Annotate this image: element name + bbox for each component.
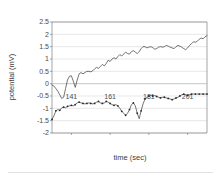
data-point-marker	[78, 101, 80, 103]
data-point-marker	[194, 93, 196, 95]
data-point-marker	[90, 103, 92, 105]
y-tick-label: -1	[43, 105, 49, 112]
data-point-marker	[125, 114, 127, 116]
y-tick-label: -1.5	[37, 117, 49, 124]
data-point-marker	[183, 93, 185, 95]
data-point-marker	[86, 103, 88, 105]
gridlines-group	[52, 22, 207, 133]
data-point-marker	[82, 103, 84, 105]
data-point-marker	[202, 93, 204, 95]
data-point-marker	[206, 93, 208, 95]
data-point-marker	[59, 109, 61, 111]
footer-divider	[8, 172, 213, 173]
data-point-marker	[140, 110, 142, 112]
data-point-marker	[148, 95, 150, 97]
data-point-marker	[67, 105, 69, 107]
data-point-marker	[117, 105, 119, 107]
x-tick-label: 161	[104, 93, 116, 100]
y-tick-label: 1	[45, 55, 49, 62]
data-point-marker	[113, 104, 115, 106]
axes-group	[52, 22, 207, 133]
data-point-marker	[101, 103, 103, 105]
data-point-marker	[167, 98, 169, 100]
x-tick-label: 141	[66, 93, 78, 100]
y-tick-label: -2	[43, 129, 49, 136]
y-tick-label: 2	[45, 31, 49, 38]
x-axis-tick-labels: 141161181201	[66, 93, 194, 135]
series-upper-trace	[52, 36, 207, 99]
data-point-marker	[191, 93, 193, 95]
data-point-marker	[55, 110, 57, 112]
data-point-marker	[109, 103, 111, 105]
data-point-marker	[98, 101, 100, 103]
data-point-marker	[63, 106, 65, 108]
data-point-marker	[175, 97, 177, 99]
y-axis-tick-labels: 2.521.510.50-0.5-1-1.5-2	[37, 18, 52, 136]
data-point-marker	[187, 95, 189, 97]
data-point-marker	[144, 98, 146, 100]
data-point-marker	[171, 99, 173, 101]
x-axis-title: time (sec)	[114, 153, 147, 162]
data-point-marker	[152, 95, 154, 97]
y-tick-label: -0.5	[37, 92, 49, 99]
y-tick-label: 0	[45, 80, 49, 87]
data-point-marker	[198, 93, 200, 95]
data-point-marker	[105, 101, 107, 103]
data-point-marker	[136, 112, 138, 114]
chart-container: 2.521.510.50-0.5-1-1.5-2 141161181201 po…	[0, 0, 221, 179]
data-point-marker	[156, 96, 158, 98]
data-point-marker	[129, 109, 131, 111]
data-point-marker	[74, 104, 76, 106]
data-point-marker	[163, 96, 165, 98]
series-path	[52, 36, 207, 99]
data-point-marker	[160, 97, 162, 99]
data-point-marker	[132, 102, 134, 104]
data-point-marker	[51, 119, 53, 121]
chart-plot: 2.521.510.50-0.5-1-1.5-2 141161181201 po…	[0, 0, 221, 179]
data-point-marker	[179, 95, 181, 97]
y-tick-label: 0.5	[39, 68, 49, 75]
data-point-marker	[70, 104, 72, 106]
data-point-marker	[94, 103, 96, 105]
y-tick-label: 1.5	[39, 43, 49, 50]
data-series-group	[51, 36, 208, 121]
data-point-marker	[121, 110, 123, 112]
y-tick-label: 2.5	[39, 18, 49, 25]
y-axis-title: potential (mV)	[7, 53, 16, 100]
